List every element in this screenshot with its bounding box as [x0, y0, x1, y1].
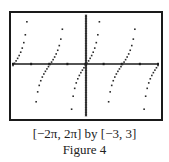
window-caption: [−2π, 2π] by [−3, 3] [0, 127, 169, 141]
figure-label: Figure 4 [0, 143, 169, 157]
